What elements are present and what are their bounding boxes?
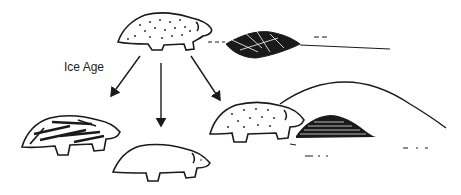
arrow-to-striped (111, 56, 140, 96)
arrow-to-speckled (191, 56, 220, 100)
ground-marks (290, 144, 428, 156)
speckled-animal-icon (210, 102, 304, 142)
ice-age-label: Ice Age (64, 60, 104, 74)
hill-icon (280, 82, 446, 128)
evolution-diagram: Ice Age (0, 0, 461, 195)
plain-animal-icon (113, 145, 210, 181)
burrow-mound-icon (296, 115, 376, 138)
ancestor-animal-icon (118, 13, 212, 50)
striped-animal-icon (22, 116, 120, 155)
brush-pile-icon (208, 30, 390, 58)
diagram-canvas (0, 0, 461, 195)
